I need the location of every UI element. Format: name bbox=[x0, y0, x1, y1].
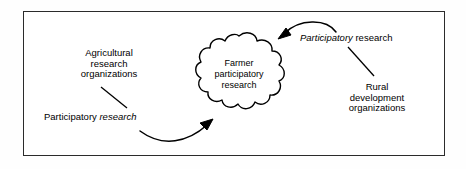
connector-right bbox=[348, 47, 374, 76]
left-actor-label: Agricultural research organizations bbox=[56, 48, 162, 80]
right-link-label-italic: Participatory bbox=[300, 32, 353, 43]
connector-left bbox=[101, 87, 127, 108]
right-actor-line-3: organizations bbox=[349, 102, 406, 113]
cloud-label-line-1: Farmer bbox=[205, 58, 273, 69]
left-actor-line-2: research bbox=[91, 58, 128, 69]
left-link-label-plain: Participatory bbox=[44, 111, 97, 122]
left-actor-line-1: Agricultural bbox=[85, 47, 133, 58]
left-actor-line-3: organizations bbox=[81, 68, 138, 79]
right-link-label-plain: research bbox=[355, 32, 392, 43]
arrow-left-to-cloud bbox=[140, 119, 213, 141]
cloud-label: Farmer participatory research bbox=[205, 58, 273, 90]
left-link-label-italic: research bbox=[99, 111, 136, 122]
cloud-label-line-2: participatory bbox=[205, 69, 273, 80]
right-link-label: Participatory research bbox=[300, 33, 392, 44]
left-link-label: Participatory research bbox=[44, 112, 136, 123]
cloud-label-line-3: research bbox=[205, 80, 273, 91]
right-actor-line-1: Rural bbox=[366, 81, 389, 92]
right-actor-line-2: development bbox=[350, 92, 404, 103]
right-actor-label: Rural development organizations bbox=[326, 82, 428, 114]
diagram-canvas: Farmer participatory research Agricultur… bbox=[0, 0, 466, 169]
